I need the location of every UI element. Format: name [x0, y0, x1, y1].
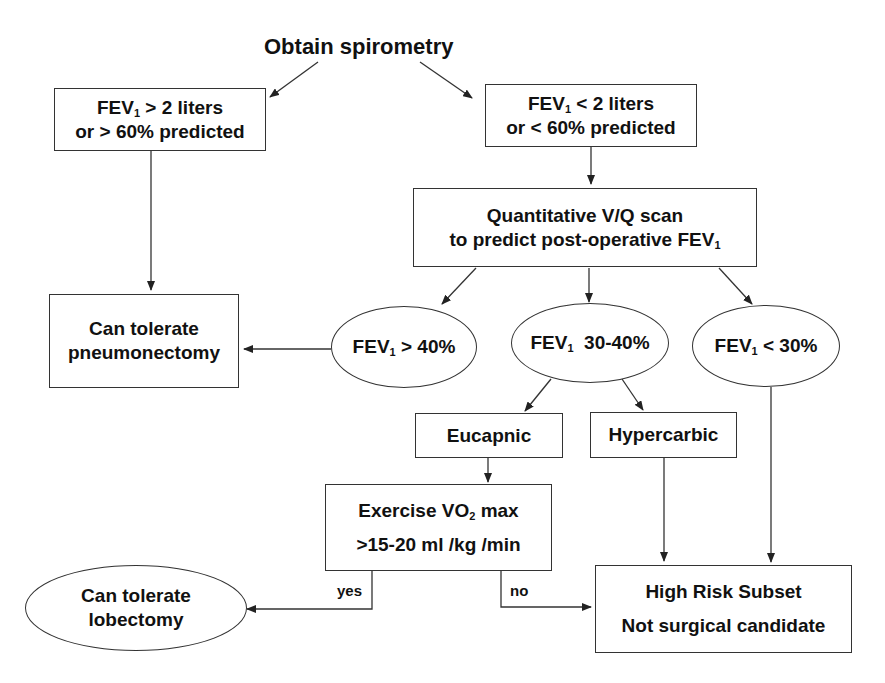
box-can-tolerate-pneumonectomy: Can tolerate pneumonectomy [49, 294, 239, 388]
start-obtain-spirometry: Obtain spirometry [264, 34, 453, 60]
ellipse-can-tolerate-lobectomy: Can tolerate lobectomy [25, 565, 247, 651]
box-fev-above-2-liters: FEV1 > 2 liters or > 60% predicted [54, 88, 266, 151]
box-exercise-vo2-max: Exercise VO2 max >15-20 ml /kg /min [325, 484, 552, 571]
box-fev-below-2-liters: FEV1 < 2 liters or < 60% predicted [485, 84, 697, 147]
ellipse-ppo-fev-below-30: FEV1 < 30% [692, 305, 840, 387]
edge-label-yes: yes [337, 582, 362, 599]
box-hypercarbic: Hypercarbic [590, 412, 737, 458]
ellipse-ppo-fev-above-40: FEV1 > 40% [331, 306, 477, 388]
box-eucapnic: Eucapnic [415, 413, 563, 458]
box-high-risk-subset: High Risk Subset Not surgical candidate [595, 565, 852, 653]
ellipse-ppo-fev-30-40: FEV1 30-40% [511, 303, 669, 383]
fev-text: FEV [97, 97, 134, 118]
edge-label-no: no [510, 582, 528, 599]
box-quantitative-vq-scan: Quantitative V/Q scan to predict post-op… [413, 188, 757, 267]
